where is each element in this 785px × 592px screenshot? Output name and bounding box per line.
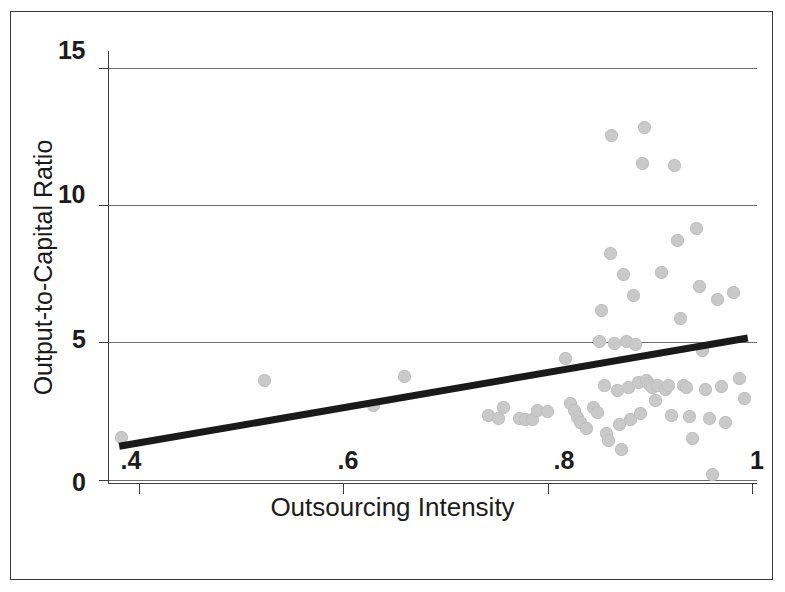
scatter-point xyxy=(580,422,593,435)
scatter-point xyxy=(605,129,618,142)
gridline-y-0 xyxy=(108,480,757,481)
scatter-point xyxy=(497,401,510,414)
scatter-point xyxy=(706,468,719,481)
scatter-point xyxy=(634,407,647,420)
scatter-point xyxy=(629,338,642,351)
x-tick-mark-1 xyxy=(752,484,753,494)
scatter-point xyxy=(398,370,411,383)
scatter-point xyxy=(636,157,649,170)
y-tick-mark-10 xyxy=(99,205,108,206)
plot-area xyxy=(108,51,757,484)
scatter-point xyxy=(655,266,668,279)
scatter-point xyxy=(674,312,687,325)
scatter-point xyxy=(680,381,693,394)
scatter-point xyxy=(559,352,572,365)
scatter-point xyxy=(593,335,606,348)
scatter-point xyxy=(715,380,728,393)
y-tick-mark-0 xyxy=(99,480,108,481)
y-tick-mark-15 xyxy=(99,68,108,69)
scatter-point xyxy=(668,159,681,172)
gridline-y-5 xyxy=(108,342,757,343)
scatter-point xyxy=(665,409,678,422)
gridline-y-10 xyxy=(108,205,757,206)
scatter-point xyxy=(602,434,615,447)
gridline-y-15 xyxy=(108,68,757,69)
scatter-point xyxy=(683,410,696,423)
y-tick-mark-5 xyxy=(99,342,108,343)
scatter-point xyxy=(367,399,380,412)
scatter-point xyxy=(627,289,640,302)
scatter-point xyxy=(591,406,604,419)
figure-container: Output-to-Capital Ratio 15 10 5 0 .4 .6 … xyxy=(0,0,785,592)
scatter-point xyxy=(690,222,703,235)
scatter-point xyxy=(703,412,716,425)
x-tick-mark-.8 xyxy=(548,484,549,494)
scatter-point xyxy=(638,121,651,134)
scatter-point xyxy=(738,392,751,405)
scatter-point xyxy=(492,412,505,425)
scatter-point xyxy=(711,293,724,306)
y-axis-title: Output-to-Capital Ratio xyxy=(28,51,58,484)
scatter-point xyxy=(686,432,699,445)
scatter-point xyxy=(541,405,554,418)
scatter-point xyxy=(595,304,608,317)
scatter-point xyxy=(733,372,746,385)
scatter-point xyxy=(617,268,630,281)
scatter-point xyxy=(719,416,732,429)
scatter-point xyxy=(671,234,684,247)
x-axis-title: Outsourcing Intensity xyxy=(0,492,785,523)
scatter-point xyxy=(649,394,662,407)
scatter-point xyxy=(699,383,712,396)
scatter-point xyxy=(727,286,740,299)
x-tick-mark-.6 xyxy=(343,484,344,494)
scatter-point xyxy=(604,247,617,260)
scatter-point xyxy=(696,344,709,357)
scatter-point xyxy=(615,443,628,456)
y-axis-title-text: Output-to-Capital Ratio xyxy=(28,51,58,484)
scatter-point xyxy=(258,374,271,387)
scatter-point xyxy=(662,379,675,392)
x-tick-mark-.4 xyxy=(139,484,140,494)
scatter-point xyxy=(693,280,706,293)
scatter-point xyxy=(598,379,611,392)
scatter-point xyxy=(115,431,128,444)
